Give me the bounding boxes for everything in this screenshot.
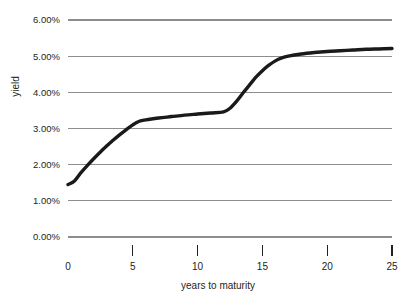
y-axis-tick-label: 0.00%: [33, 231, 60, 242]
y-axis-tick-label: 6.00%: [33, 14, 60, 25]
x-axis-tick-label: 10: [192, 261, 204, 272]
x-axis-tickmarks: [133, 245, 392, 256]
x-axis-tick-label: 20: [322, 261, 334, 272]
x-axis-tick-labels: 0510152025: [65, 261, 398, 272]
x-axis-tick-label: 25: [386, 261, 398, 272]
y-axis-tick-label: 3.00%: [33, 123, 60, 134]
gridlines: [68, 20, 392, 237]
y-axis-tick-label: 5.00%: [33, 51, 60, 62]
x-axis-tick-label: 15: [257, 261, 269, 272]
y-axis-title: yield: [10, 76, 21, 97]
y-axis-tick-label: 4.00%: [33, 87, 60, 98]
y-axis-tick-label: 1.00%: [33, 195, 60, 206]
x-axis-tick-label: 0: [65, 261, 71, 272]
chart-canvas: 0.00%1.00%2.00%3.00%4.00%5.00%6.00% 0510…: [0, 0, 418, 303]
y-axis-tick-labels: 0.00%1.00%2.00%3.00%4.00%5.00%6.00%: [33, 14, 60, 242]
y-axis-tick-label: 2.00%: [33, 159, 60, 170]
x-axis-title: years to maturity: [181, 280, 255, 291]
yield-curve-chart: 0.00%1.00%2.00%3.00%4.00%5.00%6.00% 0510…: [0, 0, 418, 303]
x-axis-tick-label: 5: [130, 261, 136, 272]
